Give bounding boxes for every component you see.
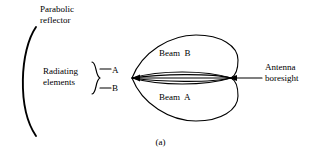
boresight-arrow-head-icon (229, 75, 237, 81)
figure-caption: (a) (0, 137, 321, 148)
label-beam-a: Beam A (159, 92, 191, 103)
parabolic-reflector-arc (23, 27, 36, 136)
label-parabolic-reflector: Parabolic reflector (40, 4, 74, 25)
label-radiating-elements: Radiating elements (43, 66, 78, 87)
figure-antenna-beam-diagram: Parabolic reflector Radiating elements A… (0, 0, 321, 163)
label-element-b: B (112, 83, 118, 94)
feed-brace-icon (92, 62, 100, 94)
label-antenna-boresight: Antenna boresight (265, 62, 299, 83)
label-element-a: A (112, 65, 119, 76)
label-beam-b: Beam B (159, 48, 191, 59)
